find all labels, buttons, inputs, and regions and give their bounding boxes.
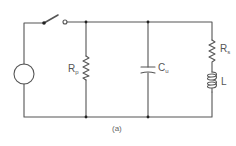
figure-caption: (a) (112, 124, 122, 133)
left-wire (24, 23, 44, 64)
junction-rp-bottom (85, 116, 88, 119)
switch-blade (44, 15, 58, 23)
label-cu: Cu (158, 63, 169, 76)
rp-resistor-icon (83, 56, 89, 80)
top-wire (67, 22, 212, 40)
junction-rp-top (85, 21, 88, 24)
switch-pivot-dot (42, 21, 46, 25)
label-l-main: L (221, 76, 227, 87)
ac-source-icon (14, 64, 34, 84)
label-rs-sub: s (227, 49, 230, 55)
label-l: L (221, 77, 227, 87)
junction-cu-bottom (147, 116, 150, 119)
l-inductor-icon (208, 72, 217, 92)
switch-terminal (63, 20, 67, 24)
left-wire-bottom (24, 84, 212, 117)
label-rp: Rp (68, 64, 79, 77)
label-rs: Rs (220, 44, 230, 57)
junction-cu-top (147, 21, 150, 24)
circuit-diagram: Rp Cu Rs L (a) (0, 0, 236, 146)
label-rp-sub: p (75, 69, 78, 75)
label-cu-sub: u (165, 68, 168, 74)
rs-resistor-icon (209, 40, 215, 72)
